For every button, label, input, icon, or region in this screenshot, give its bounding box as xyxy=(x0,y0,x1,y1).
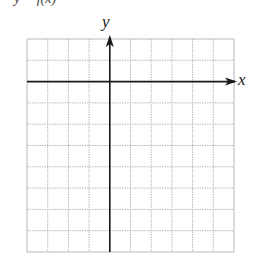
y-axis-label: y xyxy=(102,12,110,32)
coordinate-plane-figure: y = f(x) y x xyxy=(0,0,255,259)
cropped-caption: y = f(x) xyxy=(14,0,56,7)
x-axis-label: x xyxy=(238,70,246,90)
coordinate-grid xyxy=(0,0,255,259)
